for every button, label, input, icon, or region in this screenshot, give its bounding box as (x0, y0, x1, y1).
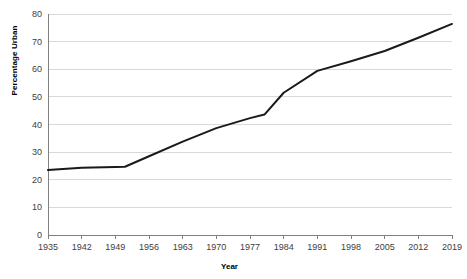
y-tick-label: 50 (16, 92, 42, 102)
x-tick-label: 1970 (199, 242, 233, 252)
x-tick-label: 1977 (233, 242, 267, 252)
x-tick-label: 2019 (435, 242, 467, 252)
y-tick-label: 70 (16, 37, 42, 47)
x-tick-label: 1991 (300, 242, 334, 252)
y-tick-label: 40 (16, 120, 42, 130)
x-tick-label: 1935 (31, 242, 65, 252)
y-tick-label: 30 (16, 147, 42, 157)
y-tick-label: 0 (16, 230, 42, 240)
x-tick-label: 1998 (334, 242, 368, 252)
y-tick-label: 20 (16, 175, 42, 185)
y-tick-label: 80 (16, 9, 42, 19)
y-tick-label: 10 (16, 202, 42, 212)
x-tick-label: 1942 (65, 242, 99, 252)
x-tick-label: 1956 (132, 242, 166, 252)
y-tick-label: 60 (16, 64, 42, 74)
x-tick-label: 2005 (368, 242, 402, 252)
x-tick-label: 2012 (401, 242, 435, 252)
x-tick-label: 1984 (267, 242, 301, 252)
x-tick-label: 1963 (166, 242, 200, 252)
x-axis-title: Year (0, 262, 459, 271)
x-tick-label: 1949 (98, 242, 132, 252)
x-tick-marks-group (48, 235, 452, 239)
gridlines-group (48, 14, 452, 235)
